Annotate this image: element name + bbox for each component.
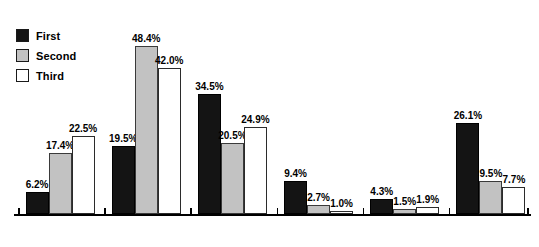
bar-third[interactable] bbox=[330, 211, 353, 214]
bar-first[interactable] bbox=[284, 181, 307, 214]
bar-third[interactable] bbox=[158, 68, 181, 214]
bar-group-bars: 4.3%1.5%1.9% bbox=[359, 33, 445, 214]
bar-third[interactable] bbox=[72, 136, 95, 214]
bar-slot-second: 1.5% bbox=[393, 33, 416, 214]
bar-value-label: 1.9% bbox=[416, 194, 439, 205]
bar-value-label: 26.1% bbox=[454, 110, 482, 121]
bar-slot-third: 1.0% bbox=[330, 33, 353, 214]
bar-group-bars: 34.5%20.5%24.9% bbox=[186, 33, 272, 214]
legend-item-first: First bbox=[16, 26, 76, 45]
bar-second[interactable] bbox=[49, 153, 72, 214]
bar-slot-second: 9.5% bbox=[479, 33, 502, 214]
bar-slot-second: 2.7% bbox=[307, 33, 330, 214]
legend-item-second: Second bbox=[16, 46, 76, 65]
bar-value-label: 34.5% bbox=[195, 81, 223, 92]
legend-label-first: First bbox=[36, 30, 60, 42]
bar-value-label: 6.2% bbox=[26, 179, 49, 190]
legend-label-third: Third bbox=[36, 70, 64, 82]
bar-slot-third: 42.0% bbox=[158, 33, 181, 214]
bar-first[interactable] bbox=[112, 146, 135, 214]
bar-value-label: 2.7% bbox=[307, 192, 330, 203]
bar-group: 34.5%20.5%24.9%Service bbox=[186, 33, 272, 214]
legend-swatch-second-icon bbox=[16, 49, 29, 62]
bar-group: 19.5%48.4%42.0%Tech/Sales bbox=[100, 33, 186, 214]
bar-group-bars: 26.1%9.5%7.7% bbox=[445, 33, 531, 214]
legend-swatch-third-icon bbox=[16, 69, 29, 82]
bar-value-label: 1.0% bbox=[330, 198, 353, 209]
legend-label-second: Second bbox=[36, 50, 76, 62]
bar-slot-first: 26.1% bbox=[456, 33, 479, 214]
bar-value-label: 17.4% bbox=[46, 140, 74, 151]
bar-third[interactable] bbox=[502, 187, 525, 214]
bar-second[interactable] bbox=[221, 143, 244, 214]
bar-third[interactable] bbox=[416, 207, 439, 214]
bar-value-label: 7.7% bbox=[503, 174, 526, 185]
bar-first[interactable] bbox=[26, 192, 49, 214]
bar-group-bars: 19.5%48.4%42.0% bbox=[100, 33, 186, 214]
legend-swatch-first-icon bbox=[16, 29, 29, 42]
bar-second[interactable] bbox=[479, 181, 502, 214]
bar-value-label: 9.4% bbox=[284, 168, 307, 179]
bar-slot-third: 7.7% bbox=[502, 33, 525, 214]
bar-slot-third: 1.9% bbox=[416, 33, 439, 214]
bar-slot-first: 34.5% bbox=[198, 33, 221, 214]
bar-value-label: 19.5% bbox=[109, 133, 137, 144]
bar-second[interactable] bbox=[135, 46, 158, 214]
bar-third[interactable] bbox=[244, 127, 267, 214]
bar-first[interactable] bbox=[198, 94, 221, 214]
bar-slot-first: 4.3% bbox=[370, 33, 393, 214]
chart-legend: First Second Third bbox=[16, 26, 76, 86]
bar-value-label: 48.4% bbox=[132, 33, 160, 44]
bar-second[interactable] bbox=[393, 209, 416, 214]
bar-group: 4.3%1.5%1.9%Craft/Prec bbox=[359, 33, 445, 214]
bar-first[interactable] bbox=[456, 123, 479, 214]
bar-second[interactable] bbox=[307, 205, 330, 214]
x-axis-line bbox=[14, 214, 531, 216]
legend-item-third: Third bbox=[16, 66, 76, 85]
bar-value-label: 22.5% bbox=[69, 123, 97, 134]
bar-value-label: 1.5% bbox=[393, 196, 416, 207]
bar-value-label: 20.5% bbox=[218, 130, 246, 141]
bar-group-bars: 9.4%2.7%1.0% bbox=[273, 33, 359, 214]
bar-value-label: 24.9% bbox=[241, 114, 269, 125]
bar-value-label: 9.5% bbox=[480, 168, 503, 179]
bar-group: 9.4%2.7%1.0%Farming bbox=[273, 33, 359, 214]
bar-group: 26.1%9.5%7.7%Operator bbox=[445, 33, 531, 214]
bar-first[interactable] bbox=[370, 199, 393, 214]
bar-slot-first: 9.4% bbox=[284, 33, 307, 214]
bar-chart: First Second Third 6.2%17.4%22.5%Prof/Mg… bbox=[0, 0, 539, 247]
bar-value-label: 42.0% bbox=[155, 55, 183, 66]
bar-slot-first: 19.5% bbox=[112, 33, 135, 214]
bar-slot-third: 24.9% bbox=[244, 33, 267, 214]
bar-value-label: 4.3% bbox=[370, 186, 393, 197]
